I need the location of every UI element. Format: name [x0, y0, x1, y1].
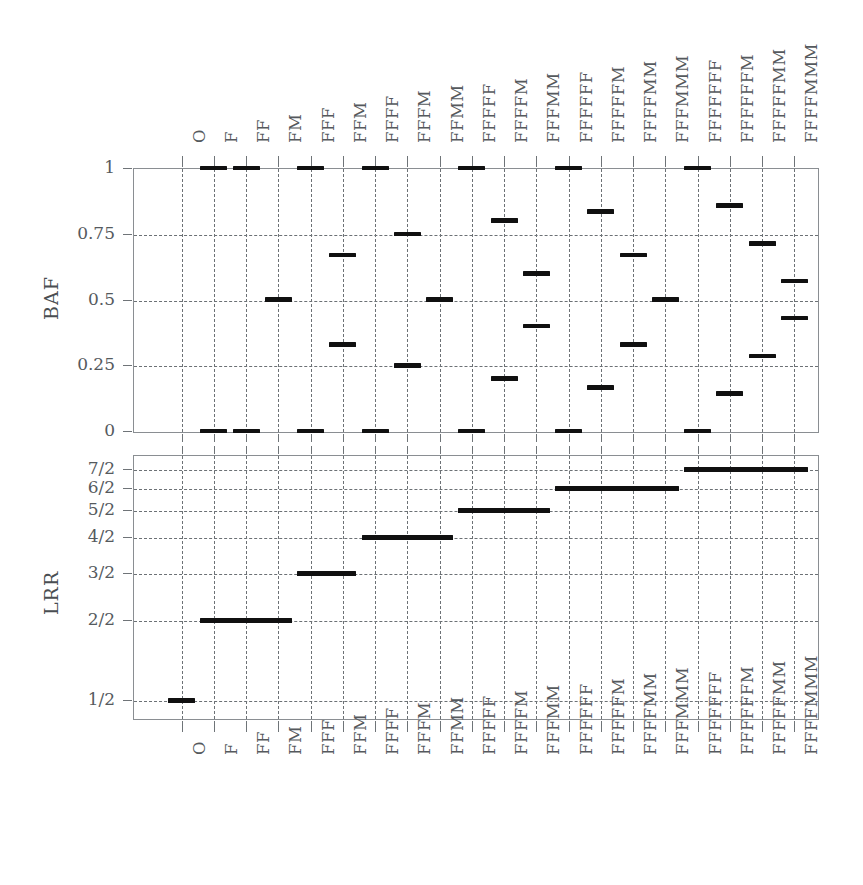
baf-horizontal-gridline	[134, 301, 818, 302]
x-axis-label-bottom: FFFFFFM	[738, 666, 757, 755]
x-axis-tick-bottom	[730, 721, 731, 732]
baf-y-tick	[123, 300, 132, 301]
x-axis-label-top: FFMM	[448, 84, 467, 143]
x-axis-tick-bottom	[407, 721, 408, 732]
lrr-data-segment	[362, 535, 454, 540]
x-axis-tick-bottom	[472, 721, 473, 732]
x-axis-tick-top	[633, 156, 634, 167]
x-axis-label-bottom: FFFM	[415, 702, 434, 755]
x-axis-label-top: FFFFMMM	[802, 43, 821, 143]
lrr-horizontal-gridline	[134, 489, 818, 490]
x-axis-tick-bottom	[665, 721, 666, 732]
x-axis-label-bottom: FFM	[351, 714, 370, 755]
x-axis-tick-bottom	[794, 721, 795, 732]
baf-data-segment	[491, 376, 518, 381]
baf-horizontal-gridline	[134, 235, 818, 236]
lrr-vertical-gridline	[633, 456, 634, 719]
lrr-y-tick	[123, 700, 132, 701]
baf-data-segment	[297, 166, 324, 171]
baf-y-tick-label: 0.75	[0, 223, 115, 243]
x-axis-label-top: FF	[254, 119, 273, 143]
baf-y-tick-label: 1	[0, 157, 115, 177]
x-axis-tick-top	[665, 156, 666, 167]
baf-data-segment	[716, 203, 743, 208]
x-axis-tick-top	[536, 156, 537, 167]
x-axis-label-bottom: FFFMM	[544, 684, 563, 755]
x-axis-label-bottom: FFFFFMM	[770, 660, 789, 755]
x-axis-tick-baf-bottom	[698, 434, 699, 442]
x-axis-label-top: FFFFFF	[577, 71, 596, 143]
x-axis-label-bottom: FFFFFFF	[706, 671, 725, 755]
x-axis-tick-top	[343, 156, 344, 167]
lrr-vertical-gridline	[601, 456, 602, 719]
x-axis-tick-baf-bottom	[762, 434, 763, 442]
x-axis-tick-baf-bottom	[440, 434, 441, 442]
x-axis-tick-bottom	[278, 721, 279, 732]
lrr-vertical-gridline	[730, 456, 731, 719]
x-axis-label-bottom: O	[190, 741, 209, 755]
x-axis-label-top: FFFM	[415, 90, 434, 143]
x-axis-label-top: FFFFFM	[609, 66, 628, 143]
x-axis-tick-bottom	[214, 721, 215, 732]
x-axis-tick-lrr-top	[343, 446, 344, 454]
baf-data-segment	[297, 429, 324, 434]
baf-data-segment	[620, 342, 647, 347]
x-axis-tick-bottom	[182, 721, 183, 732]
x-axis-tick-baf-bottom	[343, 434, 344, 442]
x-axis-tick-baf-bottom	[407, 434, 408, 442]
x-axis-label-top: FFFF	[383, 95, 402, 143]
x-axis-tick-lrr-top	[440, 446, 441, 454]
baf-data-segment	[652, 297, 679, 302]
lrr-data-segment	[458, 508, 550, 513]
baf-data-segment	[362, 429, 389, 434]
baf-data-segment	[587, 385, 614, 390]
x-axis-label-top: O	[190, 129, 209, 143]
x-axis-tick-lrr-top	[407, 446, 408, 454]
x-axis-tick-lrr-top	[182, 446, 183, 454]
x-axis-tick-bottom	[311, 721, 312, 732]
x-axis-label-top: FFM	[351, 102, 370, 143]
x-axis-tick-baf-bottom	[246, 434, 247, 442]
lrr-y-tick	[123, 469, 132, 470]
x-axis-tick-bottom	[633, 721, 634, 732]
x-axis-label-top: FFFFFMM	[770, 48, 789, 143]
x-axis-tick-top	[730, 156, 731, 167]
x-axis-tick-bottom	[440, 721, 441, 732]
baf-y-tick	[123, 431, 132, 432]
x-axis-tick-lrr-top	[762, 446, 763, 454]
lrr-y-tick-label: 4/2	[0, 526, 115, 546]
baf-data-segment	[329, 342, 356, 347]
x-axis-label-bottom: FFFFF	[480, 695, 499, 755]
x-axis-tick-bottom	[504, 721, 505, 732]
baf-data-segment	[684, 166, 711, 171]
x-axis-tick-lrr-top	[569, 446, 570, 454]
lrr-horizontal-gridline	[134, 574, 818, 575]
x-axis-tick-lrr-top	[536, 446, 537, 454]
lrr-y-tick-label: 6/2	[0, 477, 115, 497]
lrr-vertical-gridline	[407, 456, 408, 719]
baf-data-segment	[716, 391, 743, 396]
baf-data-segment	[458, 429, 485, 434]
x-axis-label-top: F	[222, 131, 241, 143]
x-axis-label-top: FFFFM	[512, 78, 531, 143]
baf-data-segment	[749, 241, 776, 246]
x-axis-label-bottom: F	[222, 743, 241, 755]
lrr-y-tick	[123, 620, 132, 621]
lrr-data-segment	[200, 618, 292, 623]
x-axis-label-bottom: FFFFMM	[641, 672, 660, 755]
x-axis-label-top: FM	[286, 114, 305, 143]
x-axis-label-bottom: FFMM	[448, 696, 467, 755]
x-axis-tick-baf-bottom	[472, 434, 473, 442]
x-axis-tick-top	[440, 156, 441, 167]
lrr-vertical-gridline	[440, 456, 441, 719]
lrr-vertical-gridline	[343, 456, 344, 719]
lrr-y-tick-label: 1/2	[0, 689, 115, 709]
baf-data-segment	[200, 166, 227, 171]
x-axis-tick-lrr-top	[375, 446, 376, 454]
baf-data-segment	[491, 218, 518, 223]
baf-data-segment	[523, 271, 550, 276]
lrr-y-tick	[123, 573, 132, 574]
x-axis-label-top: FFFFF	[480, 83, 499, 143]
baf-y-tick	[123, 365, 132, 366]
lrr-data-segment	[168, 698, 195, 703]
